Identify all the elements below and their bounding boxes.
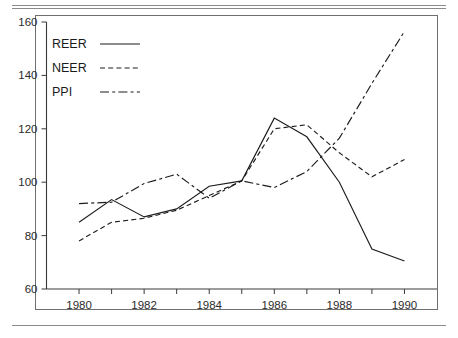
x-axis-tick-label: 1984	[196, 299, 222, 311]
data-series	[79, 31, 404, 261]
y-axis-tick-label: 160	[18, 16, 37, 28]
series-line-ppi	[79, 31, 404, 203]
legend-label-ppi: PPI	[52, 85, 72, 99]
series-line-reer	[79, 118, 404, 261]
legend-label-reer: REER	[52, 37, 87, 51]
x-axis-tick-label: 1986	[261, 299, 287, 311]
y-axis-tick-label: 120	[18, 123, 37, 135]
y-axis-tick-label: 80	[25, 230, 38, 242]
series-line-neer	[79, 125, 404, 241]
x-axis-tick-label: 1990	[392, 299, 418, 311]
axes	[42, 22, 438, 294]
plot-frame	[36, 16, 438, 310]
y-axis-tick-label: 140	[18, 69, 37, 81]
figure-container: 6080100120140160198019821984198619881990…	[0, 0, 458, 338]
legend-label-neer: NEER	[52, 61, 87, 75]
chart-legend: REERNEERPPI	[52, 37, 140, 99]
x-axis-tick-label: 1980	[66, 299, 92, 311]
x-axis-tick-label: 1988	[327, 299, 353, 311]
x-axis-tick-label: 1982	[131, 299, 157, 311]
y-axis-tick-label: 60	[25, 283, 38, 295]
y-axis-tick-label: 100	[18, 176, 37, 188]
line-chart: 6080100120140160198019821984198619881990…	[0, 0, 458, 338]
